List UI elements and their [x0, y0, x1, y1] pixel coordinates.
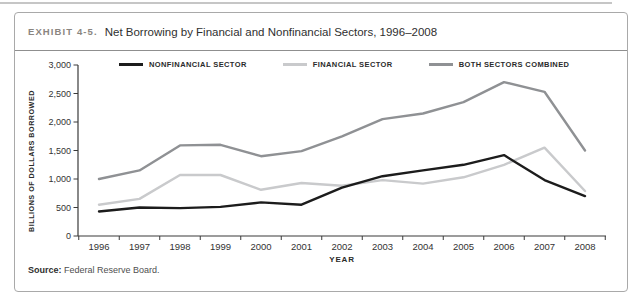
svg-text:1998: 1998	[169, 241, 190, 252]
svg-text:2002: 2002	[331, 241, 352, 252]
top-divider-rule	[0, 2, 612, 4]
svg-text:2004: 2004	[412, 241, 433, 252]
combined-line-swatch-icon	[429, 63, 453, 66]
svg-text:2003: 2003	[372, 241, 393, 252]
series-line-both-sectors-combined	[99, 82, 585, 179]
y-axis-title: BILLIONS OF DOLLARS BORROWED	[27, 90, 36, 232]
nonfinancial-line-swatch-icon	[119, 63, 143, 66]
exhibit-page: EXHIBIT 4-5. Net Borrowing by Financial …	[0, 0, 641, 307]
x-axis-title: YEAR	[329, 255, 354, 264]
legend-item-nonfinancial: NONFINANCIAL SECTOR	[119, 60, 247, 69]
legend-item-combined: BOTH SECTORS COMBINED	[429, 60, 570, 69]
svg-text:2007: 2007	[534, 241, 555, 252]
series-line-nonfinancial-sector	[99, 155, 585, 211]
svg-text:0: 0	[66, 231, 71, 241]
legend-label-nonfinancial: NONFINANCIAL SECTOR	[149, 60, 247, 69]
exhibit-title: Net Borrowing by Financial and Nonfinanc…	[105, 26, 437, 38]
svg-text:2008: 2008	[574, 241, 595, 252]
svg-text:2005: 2005	[453, 241, 474, 252]
series-line-financial-sector	[99, 148, 585, 205]
svg-text:500: 500	[56, 203, 71, 213]
svg-text:3,000: 3,000	[48, 60, 71, 70]
source-note: Source: Federal Reserve Board.	[28, 265, 160, 275]
chart-area: 05001,0001,5002,0002,5003,00019961997199…	[15, 51, 628, 273]
line-chart: 05001,0001,5002,0002,5003,00019961997199…	[15, 51, 628, 273]
legend-label-financial: FINANCIAL SECTOR	[313, 60, 393, 69]
svg-text:1,500: 1,500	[48, 146, 71, 156]
source-label: Source:	[28, 265, 62, 275]
financial-line-swatch-icon	[283, 63, 307, 66]
svg-text:1999: 1999	[210, 241, 231, 252]
svg-text:1,000: 1,000	[48, 174, 71, 184]
svg-text:2,500: 2,500	[48, 89, 71, 99]
x-ticks: 1996199719981999200020012002200320042005…	[79, 236, 606, 252]
svg-text:2000: 2000	[250, 241, 271, 252]
y-ticks: 05001,0001,5002,0002,5003,000	[48, 60, 78, 241]
svg-text:2,000: 2,000	[48, 117, 71, 127]
svg-text:1996: 1996	[88, 241, 109, 252]
source-text: Federal Reserve Board.	[64, 265, 160, 275]
chart-legend: NONFINANCIAL SECTOR FINANCIAL SECTOR BOT…	[119, 60, 569, 69]
exhibit-box: EXHIBIT 4-5. Net Borrowing by Financial …	[14, 12, 628, 292]
exhibit-number: EXHIBIT 4-5.	[28, 26, 98, 37]
axes	[78, 65, 606, 236]
legend-label-combined: BOTH SECTORS COMBINED	[459, 60, 570, 69]
svg-text:2006: 2006	[493, 241, 514, 252]
exhibit-title-row: EXHIBIT 4-5. Net Borrowing by Financial …	[15, 13, 627, 51]
svg-text:1997: 1997	[129, 241, 150, 252]
legend-item-financial: FINANCIAL SECTOR	[283, 60, 393, 69]
svg-text:2001: 2001	[291, 241, 312, 252]
